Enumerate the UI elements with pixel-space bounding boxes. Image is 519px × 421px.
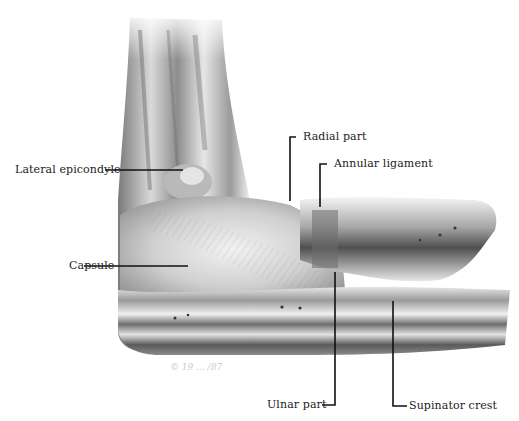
ulna [118, 287, 510, 355]
annular-ligament-band [312, 210, 338, 268]
label-annular-ligament: Annular ligament [334, 158, 433, 170]
label-lateral-epicondyle: Lateral epicondyle [15, 164, 121, 176]
artist-signature: © 19 ... /87 [170, 362, 222, 372]
label-ulnar-part: Ulnar part [267, 399, 326, 411]
radius [300, 197, 496, 281]
leader-radial-part [290, 137, 296, 201]
label-supinator-crest: Supinator crest [409, 400, 497, 412]
elbow-illustration [0, 0, 519, 421]
anatomy-figure: Lateral epicondyle Capsule Radial part A… [0, 0, 519, 421]
label-capsule: Capsule [69, 260, 114, 272]
label-radial-part: Radial part [303, 131, 367, 143]
